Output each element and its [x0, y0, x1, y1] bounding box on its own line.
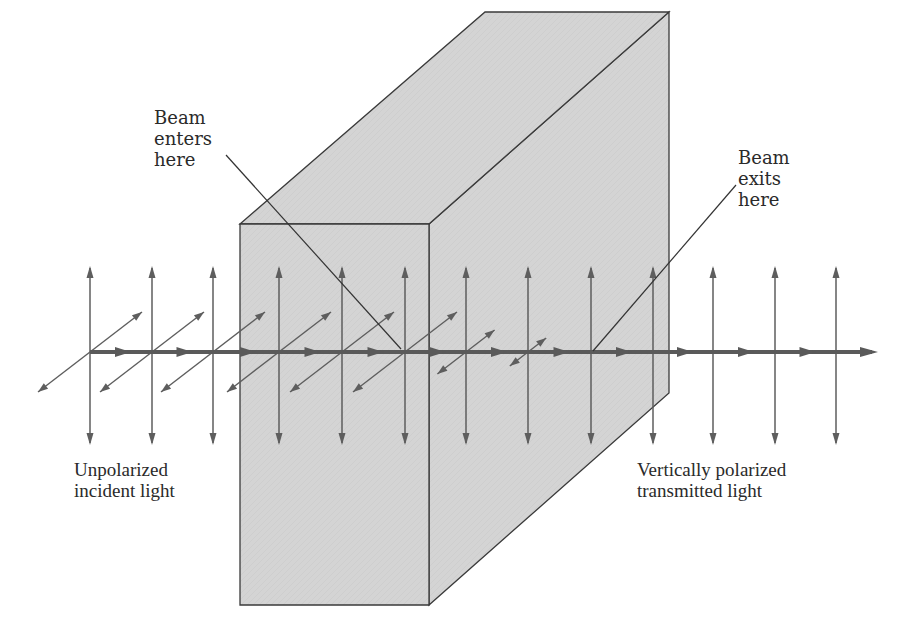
arrowhead-icon: [772, 266, 779, 278]
arrowhead-icon: [177, 347, 193, 357]
arrowhead-icon: [194, 312, 204, 321]
arrowhead-icon: [100, 383, 110, 392]
arrowhead-icon: [87, 433, 94, 445]
vertical-polarization-arrow: [710, 266, 717, 445]
arrowhead-icon: [87, 266, 94, 278]
vertical-polarization-arrow: [772, 266, 779, 445]
arrowhead-icon: [677, 347, 693, 357]
arrowhead-icon: [149, 433, 156, 445]
vertical-polarization-arrow: [833, 266, 840, 445]
arrowhead-icon: [227, 383, 237, 392]
arrowhead-icon: [149, 266, 156, 278]
arrowhead-icon: [710, 433, 717, 445]
vertically-polarized-transmitted-light-label: Vertically polarized transmitted light: [637, 459, 786, 501]
crystal-front-face: [240, 224, 429, 605]
arrowhead-icon: [650, 433, 657, 445]
arrowhead-icon: [210, 433, 217, 445]
vertical-polarization-arrow: [87, 266, 94, 445]
arrowhead-icon: [860, 347, 878, 357]
arrowhead-icon: [132, 312, 142, 321]
crystal-block: [240, 12, 669, 605]
arrowhead-icon: [738, 347, 754, 357]
arrowhead-icon: [710, 266, 717, 278]
arrowhead-icon: [161, 383, 171, 392]
polarizer-diagram: [0, 0, 906, 634]
arrowhead-icon: [833, 266, 840, 278]
beam-enters-label: Beam enters here: [154, 107, 212, 170]
arrowhead-icon: [38, 383, 48, 392]
arrowhead-icon: [210, 266, 217, 278]
unpolarized-incident-light-label: Unpolarized incident light: [74, 459, 175, 501]
vertical-polarization-arrow: [149, 266, 156, 445]
beam-exits-label: Beam exits here: [738, 147, 790, 210]
arrowhead-icon: [833, 433, 840, 445]
arrowhead-icon: [115, 347, 131, 357]
arrowhead-icon: [800, 347, 816, 357]
diagram-stage: Beam enters here Beam exits here Unpolar…: [0, 0, 906, 634]
vertical-polarization-arrow: [210, 266, 217, 445]
arrowhead-icon: [772, 433, 779, 445]
